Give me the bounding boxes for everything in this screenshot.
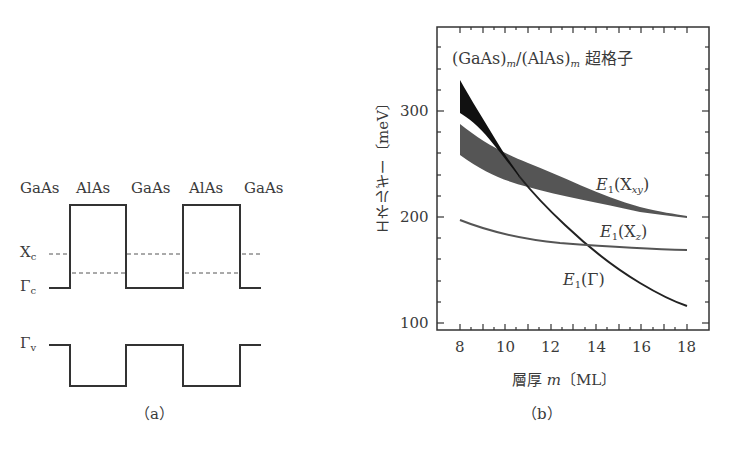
- x-axis-label: 層厚 m〔ML〕: [512, 368, 616, 389]
- curve-e1-xz: [460, 220, 687, 250]
- label-e1-xxy: E1(Xxy): [596, 175, 649, 195]
- y-tick-100: 100: [400, 314, 429, 332]
- y-axis-label: エネルギー〔meV〕: [372, 70, 393, 260]
- y-tick-200: 200: [400, 208, 429, 226]
- y-tick-300: 300: [400, 102, 429, 120]
- chart-title: (GaAs)m/(AlAs)m 超格子: [452, 45, 633, 69]
- x-tick-18: 18: [677, 338, 696, 356]
- x-tick-16: 16: [632, 338, 651, 356]
- label-e1-gamma: E1(Γ): [563, 270, 605, 290]
- caption-b: （b）: [522, 402, 562, 423]
- x-tick-8: 8: [455, 338, 465, 356]
- label-e1-xz: E1(Xz): [600, 222, 647, 242]
- x-tick-10: 10: [496, 338, 515, 356]
- x-tick-14: 14: [587, 338, 606, 356]
- x-tick-12: 12: [541, 338, 560, 356]
